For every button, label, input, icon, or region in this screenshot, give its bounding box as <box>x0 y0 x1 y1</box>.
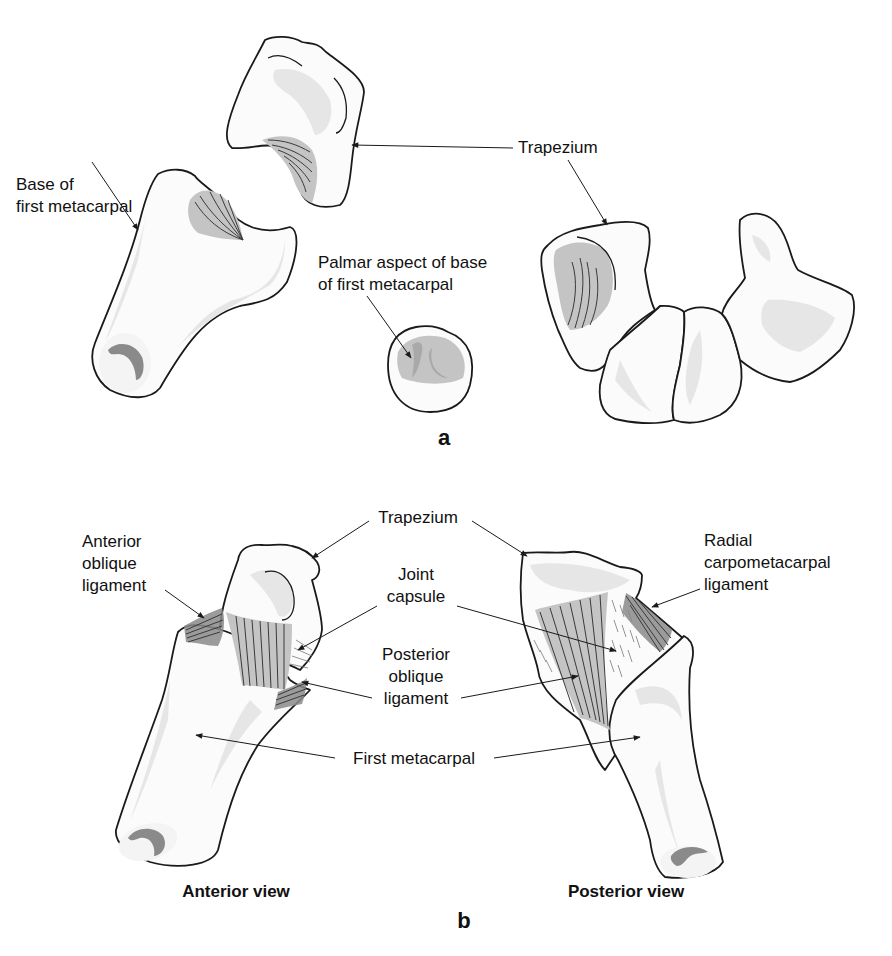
palmar-aspect-base-a <box>388 326 472 412</box>
posterior-view-specimen <box>521 552 723 878</box>
label-text: First metacarpal <box>353 749 475 768</box>
leader-arrow <box>568 160 607 225</box>
leader-arrow <box>312 521 369 558</box>
label-radial-carpometacarpal-ligament: Radial carpometacarpal ligament <box>652 531 831 607</box>
leader-arrow <box>302 682 372 698</box>
label-text: Anterior <box>82 532 142 551</box>
label-text: Posterior <box>382 645 450 664</box>
label-text: ligament <box>82 576 147 595</box>
trapezium-bone-a-top <box>227 37 364 207</box>
leader-arrow <box>92 162 138 230</box>
label-text: oblique <box>82 554 137 573</box>
label-text: Palmar aspect of base <box>318 253 487 272</box>
leader-arrow <box>652 589 700 607</box>
panel-label-b: b <box>457 908 470 933</box>
leader-arrow <box>165 590 204 618</box>
distal-carpal-row-a <box>541 214 854 423</box>
label-text: Trapezium <box>378 508 458 527</box>
trapeziometacarpal-joint-diagram: Base of first metacarpal Trapezium Palma… <box>0 0 892 956</box>
label-text: Base of <box>16 175 74 194</box>
panel-label-a: a <box>438 425 451 450</box>
label-text: ligament <box>704 575 769 594</box>
label-trapezium-b: Trapezium <box>312 508 527 558</box>
label-base-of-first-metacarpal: Base of first metacarpal <box>16 162 138 230</box>
label-text: of first metacarpal <box>318 275 453 294</box>
label-text: Trapezium <box>518 138 598 157</box>
label-text: ligament <box>384 689 449 708</box>
label-text: first metacarpal <box>16 197 132 216</box>
caption-anterior-view: Anterior view <box>182 882 290 901</box>
label-text: Radial <box>704 531 752 550</box>
label-text: capsule <box>387 587 446 606</box>
label-trapezium-a: Trapezium <box>352 138 607 225</box>
leader-arrow <box>367 296 411 358</box>
panel-b: Anterior oblique ligament Trapezium Join… <box>82 508 831 933</box>
caption-posterior-view: Posterior view <box>568 882 685 901</box>
label-text: Joint <box>398 565 434 584</box>
label-text: oblique <box>389 667 444 686</box>
label-text: carpometacarpal <box>704 553 831 572</box>
leader-arrow <box>352 145 513 148</box>
leader-arrow <box>472 521 527 556</box>
panel-a: Base of first metacarpal Trapezium Palma… <box>16 37 854 450</box>
label-anterior-oblique-ligament: Anterior oblique ligament <box>82 532 204 618</box>
